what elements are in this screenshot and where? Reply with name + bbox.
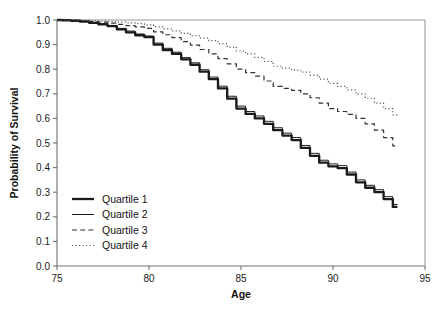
y-tick-label: 0.7 <box>36 88 50 99</box>
y-axis-title: Probability of Survival <box>8 87 20 198</box>
x-axis-title: Age <box>231 288 251 300</box>
y-tick-label: 1.0 <box>36 15 50 26</box>
y-tick-label: 0.6 <box>36 113 50 124</box>
y-tick-label: 0.3 <box>36 187 50 198</box>
chart-background <box>0 0 447 311</box>
x-tick-label: 80 <box>143 273 155 284</box>
legend-label-1: Quartile 1 <box>102 193 148 205</box>
y-tick-label: 0.5 <box>36 138 50 149</box>
legend-label-3: Quartile 3 <box>102 224 148 236</box>
y-tick-label: 0.4 <box>36 162 50 173</box>
y-tick-label: 0.0 <box>36 261 50 272</box>
y-tick-label: 0.8 <box>36 64 50 75</box>
y-tick-label: 0.9 <box>36 39 50 50</box>
survival-curve-chart: 0.00.10.20.30.40.50.60.70.80.91.0 758085… <box>0 0 447 311</box>
x-tick-label: 75 <box>51 273 63 284</box>
y-tick-label: 0.2 <box>36 211 50 222</box>
legend-label-4: Quartile 4 <box>102 239 148 251</box>
x-tick-label: 85 <box>235 273 247 284</box>
x-tick-label: 95 <box>419 273 431 284</box>
y-tick-label: 0.1 <box>36 236 50 247</box>
x-tick-label: 90 <box>327 273 339 284</box>
legend-label-2: Quartile 2 <box>102 208 148 220</box>
